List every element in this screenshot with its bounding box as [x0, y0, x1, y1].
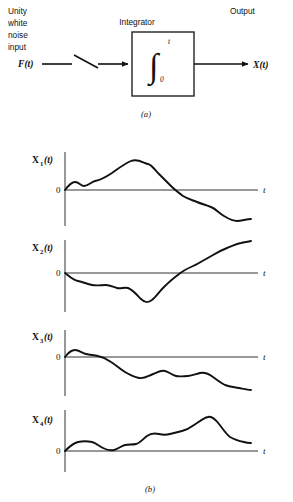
- plot-x1: X 1 (t) 0 t: [32, 152, 266, 226]
- plot-x3: X 3 (t) 0 t: [32, 330, 266, 396]
- plot-x2-ylabel-base: X: [32, 242, 39, 253]
- integrator-block-title: Integrator: [119, 17, 155, 27]
- plot-x1-ylabel-arg: (t): [44, 154, 53, 166]
- plot-x3-ylabel-base: X: [32, 331, 39, 342]
- plot-x3-origin-label: 0: [56, 352, 61, 362]
- plot-x4-ylabel-arg: (t): [44, 414, 53, 426]
- plot-x1-curve: [65, 160, 251, 221]
- plot-x1-xlabel: t: [263, 185, 266, 195]
- caption-b: (b): [145, 484, 155, 494]
- plot-x2: X 2 (t) 0 t: [32, 240, 266, 312]
- plot-x2-xlabel: t: [263, 268, 266, 278]
- plot-x4-origin-label: 0: [56, 446, 61, 456]
- caption-a: (a): [141, 109, 151, 119]
- plot-x1-origin-label: 0: [56, 185, 61, 195]
- plot-x3-ylabel-arg: (t): [44, 331, 53, 343]
- plot-x1-ylabel-base: X: [32, 154, 39, 165]
- input-signal-label: F(t): [17, 58, 33, 70]
- input-label-line-4: input: [8, 42, 27, 52]
- plot-x3-curve: [65, 350, 251, 390]
- plot-x2-curve: [65, 241, 251, 302]
- switch-lever: [74, 55, 98, 68]
- figure-svg: Unity white noise input F(t) Integrator …: [0, 0, 293, 502]
- input-label-line-3: noise: [8, 30, 28, 40]
- input-label-line-2: white: [7, 18, 28, 28]
- plot-x3-xlabel: t: [263, 352, 266, 362]
- integrator-block: [132, 32, 194, 96]
- plot-x2-origin-label: 0: [56, 268, 61, 278]
- input-label-line-1: Unity: [8, 6, 28, 16]
- plot-x4: X 4 (t) 0 t: [32, 410, 266, 472]
- plot-x4-curve: [65, 417, 251, 451]
- panel-a: Unity white noise input F(t) Integrator …: [7, 6, 268, 119]
- figure-root: Unity white noise input F(t) Integrator …: [0, 0, 293, 502]
- plot-x4-ylabel-base: X: [32, 414, 39, 425]
- plot-x4-xlabel: t: [263, 446, 266, 456]
- plot-x1-ylabel-sub: 1: [40, 160, 43, 167]
- output-signal-label: X(t): [252, 59, 268, 71]
- output-label: Output: [230, 6, 256, 16]
- integral-lower-limit: 0: [160, 75, 164, 84]
- plot-x2-ylabel-arg: (t): [44, 242, 53, 254]
